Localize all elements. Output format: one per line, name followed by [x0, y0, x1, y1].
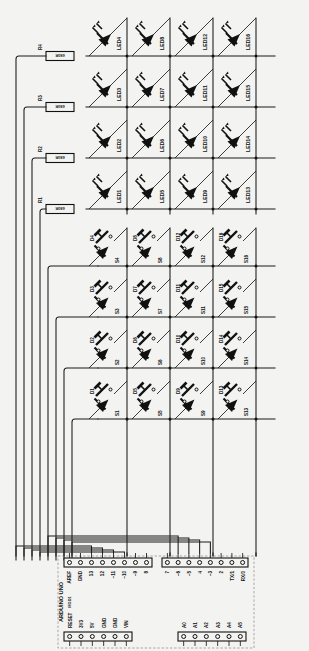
header-pin-~10[interactable]	[123, 561, 127, 565]
led-anode-junction	[169, 208, 172, 211]
switch-terminal[interactable]	[109, 337, 112, 340]
switch-terminal[interactable]	[97, 247, 100, 250]
header-pin-RESET[interactable]	[68, 635, 72, 639]
switch-terminal[interactable]	[183, 400, 186, 403]
switch-terminal[interactable]	[97, 298, 100, 301]
header-pin-label: ~9	[133, 571, 138, 577]
switch-terminal[interactable]	[183, 349, 186, 352]
diode-designator: D14	[219, 334, 224, 343]
switch-terminal[interactable]	[226, 349, 229, 352]
switch-terminal[interactable]	[109, 286, 112, 289]
header-body	[64, 632, 132, 641]
switch-terminal[interactable]	[140, 247, 143, 250]
switch-terminal[interactable]	[152, 286, 155, 289]
switch-terminal[interactable]	[195, 388, 198, 391]
header-pin-~5[interactable]	[187, 561, 191, 565]
header-pin-label: RX/0	[241, 571, 246, 582]
led-anode-junction	[126, 157, 129, 160]
switch-terminal[interactable]	[238, 388, 241, 391]
header-pin-A4[interactable]	[227, 635, 231, 639]
header-pin-VIN[interactable]	[124, 635, 128, 639]
header-pin-5V[interactable]	[90, 635, 94, 639]
diode-designator: D9	[176, 388, 181, 394]
key-column-junction	[126, 367, 129, 370]
switch-designator: S11	[201, 306, 206, 314]
header-pin-RX/0[interactable]	[241, 561, 245, 565]
header-pin-GND[interactable]	[102, 635, 106, 639]
switch-terminal[interactable]	[238, 286, 241, 289]
header-pin-12[interactable]	[101, 561, 105, 565]
key-column-junction	[255, 316, 258, 319]
key-column-junction	[169, 316, 172, 319]
header-pin-~11[interactable]	[112, 561, 116, 565]
switch-designator: S1	[115, 410, 120, 416]
header-pin-AREF[interactable]	[68, 561, 72, 565]
header-pin-label: ~5	[187, 571, 192, 577]
switch-designator: S13	[244, 407, 249, 416]
switch-terminal[interactable]	[183, 298, 186, 301]
header-pin-label: GND	[113, 617, 118, 628]
switch-terminal[interactable]	[140, 349, 143, 352]
switch-terminal[interactable]	[152, 235, 155, 238]
led-designator: LED5	[159, 190, 165, 203]
switch-terminal[interactable]	[109, 388, 112, 391]
diode-designator: D1	[90, 388, 95, 394]
switch-terminal[interactable]	[152, 337, 155, 340]
switch-terminal[interactable]	[97, 349, 100, 352]
switch-terminal[interactable]	[140, 400, 143, 403]
key-column-junction	[255, 265, 258, 268]
switch-terminal[interactable]	[183, 247, 186, 250]
header-pin-label: ~11	[111, 571, 116, 579]
switch-terminal[interactable]	[226, 298, 229, 301]
switch-terminal[interactable]	[109, 235, 112, 238]
switch-terminal[interactable]	[226, 247, 229, 250]
switch-terminal[interactable]	[97, 400, 100, 403]
header-pin-label: A0	[182, 622, 187, 628]
header-pin-A1[interactable]	[193, 635, 197, 639]
switch-designator: S14	[244, 356, 249, 365]
header-pin-7[interactable]	[165, 561, 169, 565]
resistor-designator: R1	[38, 197, 43, 203]
switch-designator: S4	[115, 257, 120, 263]
diode-designator: D5	[133, 388, 138, 394]
key-column-junction	[169, 265, 172, 268]
switch-terminal[interactable]	[238, 337, 241, 340]
header-pin-label: 7	[165, 571, 170, 574]
header-pin-~6[interactable]	[176, 561, 180, 565]
header-pin-label: 8	[144, 571, 149, 574]
header-pin-GND[interactable]	[113, 635, 117, 639]
schematic-canvas: LED1LED2LED3LED4LED5LED6LED7LED8LED9LED1…	[0, 0, 309, 651]
switch-terminal[interactable]	[152, 388, 155, 391]
switch-terminal[interactable]	[195, 235, 198, 238]
led-anode-junction	[126, 106, 129, 109]
header-pin-8[interactable]	[145, 561, 149, 565]
led-designator: LED4	[116, 37, 122, 50]
switch-designator: S5	[158, 410, 163, 416]
diode-designator: D12	[176, 232, 181, 241]
led-designator: LED6	[159, 139, 165, 152]
switch-terminal[interactable]	[140, 298, 143, 301]
led-anode-junction	[255, 208, 258, 211]
switch-terminal[interactable]	[238, 235, 241, 238]
header-pin-A0[interactable]	[182, 635, 186, 639]
switch-terminal[interactable]	[195, 286, 198, 289]
switch-designator: S6	[158, 359, 163, 365]
resistor-designator: R4	[38, 44, 43, 50]
header-pin-13[interactable]	[90, 561, 94, 565]
led-designator: LED16	[245, 34, 251, 50]
header-pin-GND[interactable]	[79, 561, 83, 565]
diode-designator: D7	[133, 286, 138, 292]
header-pin-A3[interactable]	[216, 635, 220, 639]
resistor-designator: R2	[38, 146, 43, 152]
header-pin-A5[interactable]	[238, 635, 242, 639]
header-pin-TX/1[interactable]	[230, 561, 234, 565]
switch-terminal[interactable]	[226, 400, 229, 403]
header-pin-~3[interactable]	[208, 561, 212, 565]
header-pin-A2[interactable]	[204, 635, 208, 639]
header-pin-2[interactable]	[219, 561, 223, 565]
switch-terminal[interactable]	[195, 337, 198, 340]
key-column-junction	[126, 316, 129, 319]
header-pin-3V3[interactable]	[79, 635, 83, 639]
header-pin-~9[interactable]	[134, 561, 138, 565]
header-pin-4[interactable]	[198, 561, 202, 565]
